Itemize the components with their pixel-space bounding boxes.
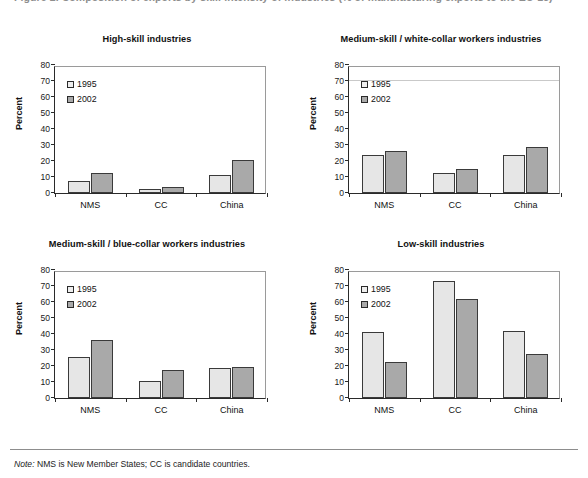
y-axis-tick-mark xyxy=(345,333,349,334)
chart-legend: 19952002 xyxy=(361,79,391,109)
x-axis-tick-label: CC xyxy=(155,200,168,210)
bar xyxy=(526,354,548,398)
bar xyxy=(68,357,90,398)
y-axis-tick-label: 60 xyxy=(40,92,50,102)
x-axis-tick-label: China xyxy=(220,405,244,415)
x-axis-tick-mark xyxy=(196,193,197,197)
y-axis-tick-mark xyxy=(51,317,55,318)
x-axis-tick-mark xyxy=(420,193,421,197)
y-axis-label: Percent xyxy=(308,97,318,130)
legend-swatch-icon xyxy=(361,286,368,293)
footnote: Note: NMS is New Member States; CC is ca… xyxy=(14,459,250,469)
x-axis-tick-label: CC xyxy=(449,405,462,415)
y-axis-tick-mark xyxy=(51,381,55,382)
bar xyxy=(209,368,231,398)
plot-area: 01020304050607080NMSCCChina19952002 xyxy=(348,66,560,194)
y-axis-tick-mark xyxy=(345,144,349,145)
y-axis-label: Percent xyxy=(308,302,318,335)
y-axis-tick-mark xyxy=(345,269,349,270)
footnote-prefix: Note: xyxy=(14,459,35,469)
y-axis-tick-label: 30 xyxy=(40,140,50,150)
y-axis-tick-mark xyxy=(51,96,55,97)
legend-swatch-icon xyxy=(67,286,74,293)
legend-item: 1995 xyxy=(361,79,391,89)
chart-title: Medium-skill / white-collar workers indu… xyxy=(294,34,588,44)
chart-panel-low-skill: Low-skill industriesPercent0102030405060… xyxy=(294,229,588,434)
bar xyxy=(91,340,113,398)
x-axis-tick-mark xyxy=(196,398,197,402)
x-axis-tick-label: CC xyxy=(155,405,168,415)
bar xyxy=(385,151,407,193)
y-axis-tick-label: 30 xyxy=(334,345,344,355)
legend-label: 1995 xyxy=(77,79,97,89)
y-axis-tick-label: 80 xyxy=(40,265,50,275)
y-axis-tick-mark xyxy=(345,285,349,286)
x-axis-tick-label: CC xyxy=(449,200,462,210)
y-axis-tick-label: 40 xyxy=(40,329,50,339)
legend-item: 2002 xyxy=(67,94,97,104)
y-axis-tick-mark xyxy=(51,301,55,302)
legend-item: 2002 xyxy=(67,299,97,309)
plot-area: 01020304050607080NMSCCChina19952002 xyxy=(348,271,560,399)
bar xyxy=(162,187,184,193)
y-axis-tick-label: 20 xyxy=(334,156,344,166)
bar xyxy=(139,381,161,398)
x-axis-tick-mark xyxy=(55,398,56,402)
y-axis-tick-mark xyxy=(51,112,55,113)
bar xyxy=(433,173,455,193)
legend-swatch-icon xyxy=(67,81,74,88)
plot-area: 01020304050607080NMSCCChina19952002 xyxy=(54,271,266,399)
legend-item: 1995 xyxy=(67,79,97,89)
y-axis-tick-mark xyxy=(51,64,55,65)
x-axis-tick-mark xyxy=(349,193,350,197)
x-axis-tick-label: China xyxy=(220,200,244,210)
bar xyxy=(139,189,161,193)
x-axis-tick-label: China xyxy=(514,405,538,415)
y-axis-tick-mark xyxy=(345,80,349,81)
y-axis-tick-mark xyxy=(345,64,349,65)
bar xyxy=(456,299,478,398)
y-axis-tick-label: 40 xyxy=(334,329,344,339)
bar xyxy=(362,332,384,398)
x-axis-tick-label: NMS xyxy=(374,405,394,415)
legend-label: 2002 xyxy=(77,299,97,309)
chart-title: Medium-skill / blue-collar workers indus… xyxy=(0,239,294,249)
legend-label: 2002 xyxy=(77,94,97,104)
plot-area: 01020304050607080NMSCCChina19952002 xyxy=(54,66,266,194)
y-axis-tick-mark xyxy=(345,112,349,113)
bar xyxy=(162,370,184,398)
y-axis-tick-label: 40 xyxy=(334,124,344,134)
y-axis-tick-mark xyxy=(51,333,55,334)
y-axis-tick-mark xyxy=(345,160,349,161)
y-axis-tick-label: 20 xyxy=(334,361,344,371)
bar xyxy=(503,155,525,193)
chart-panel-medium-skill-white-collar: Medium-skill / white-collar workers indu… xyxy=(294,24,588,229)
chart-grid: High-skill industriesPercent010203040506… xyxy=(0,24,588,434)
legend-swatch-icon xyxy=(67,96,74,103)
x-axis-tick-mark xyxy=(126,193,127,197)
y-axis-tick-label: 10 xyxy=(40,172,50,182)
y-axis-tick-label: 0 xyxy=(339,393,344,403)
y-axis-tick-label: 80 xyxy=(334,60,344,70)
x-axis-tick-label: NMS xyxy=(80,405,100,415)
bar xyxy=(68,181,90,193)
chart-title: Low-skill industries xyxy=(294,239,588,249)
y-axis-tick-label: 50 xyxy=(40,108,50,118)
y-axis-tick-label: 10 xyxy=(40,377,50,387)
y-axis-tick-label: 10 xyxy=(334,377,344,387)
x-axis-tick-mark xyxy=(126,398,127,402)
y-axis-tick-mark xyxy=(345,301,349,302)
y-axis-tick-label: 30 xyxy=(40,345,50,355)
x-axis-tick-label: China xyxy=(514,200,538,210)
x-axis-tick-mark xyxy=(267,398,268,402)
legend-label: 1995 xyxy=(371,284,391,294)
y-axis-tick-label: 60 xyxy=(334,92,344,102)
legend-item: 2002 xyxy=(361,299,391,309)
bar xyxy=(503,331,525,398)
x-axis-tick-mark xyxy=(561,193,562,197)
y-axis-tick-mark xyxy=(345,176,349,177)
y-axis-tick-label: 0 xyxy=(45,393,50,403)
bar xyxy=(232,160,254,193)
chart-panel-high-skill: High-skill industriesPercent010203040506… xyxy=(0,24,294,229)
footnote-text: NMS is New Member States; CC is candidat… xyxy=(35,459,250,469)
